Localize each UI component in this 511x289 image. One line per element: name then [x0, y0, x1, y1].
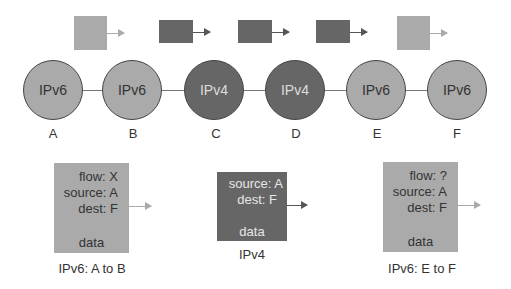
- packet-ipv4: source: A dest: F data: [217, 172, 287, 241]
- link-a-b: [83, 90, 102, 91]
- packet-flow: flow: ?: [383, 168, 458, 184]
- arrow-icon: [193, 32, 210, 33]
- top-packet-ipv4-1: [159, 20, 193, 43]
- node-protocol: IPv6: [118, 82, 146, 98]
- node-label-e: E: [367, 126, 387, 141]
- top-packet-ipv6-2: [397, 16, 430, 50]
- packet-caption: IPv6: A to B: [40, 261, 144, 276]
- node-protocol: IPv6: [443, 82, 471, 98]
- node-label-a: A: [43, 126, 63, 141]
- node-f: IPv6: [427, 60, 487, 120]
- link-d-e: [325, 90, 346, 91]
- node-label-f: F: [447, 126, 467, 141]
- packet-data: data: [54, 235, 129, 251]
- node-b: IPv6: [102, 60, 162, 120]
- packet-ipv6-e-to-f: flow: ? source: A dest: F data: [383, 162, 458, 252]
- node-protocol: IPv4: [281, 82, 309, 98]
- node-label-b: B: [123, 126, 143, 141]
- arrow-icon: [129, 206, 151, 207]
- packet-source: source: A: [217, 176, 287, 192]
- packet-flow: flow: X: [54, 169, 129, 185]
- node-d: IPv4: [265, 60, 325, 120]
- arrow-icon: [272, 32, 289, 33]
- node-e: IPv6: [346, 60, 406, 120]
- packet-dest: dest: F: [217, 192, 287, 208]
- node-a: IPv6: [23, 60, 83, 120]
- link-b-c: [162, 90, 184, 91]
- arrow-icon: [458, 205, 480, 206]
- arrow-icon: [350, 32, 367, 33]
- packet-caption: IPv4: [217, 247, 287, 262]
- arrow-icon: [107, 33, 124, 34]
- link-c-d: [244, 90, 265, 91]
- node-label-c: C: [206, 126, 226, 141]
- link-e-f: [406, 90, 427, 91]
- top-packet-ipv4-2: [238, 20, 272, 43]
- top-packet-ipv6-1: [74, 16, 107, 50]
- packet-data: data: [383, 234, 458, 250]
- packet-source: source: A: [54, 185, 129, 201]
- node-protocol: IPv6: [39, 82, 67, 98]
- arrow-icon: [430, 33, 447, 34]
- packet-dest: dest: F: [383, 200, 458, 216]
- arrow-icon: [287, 205, 307, 206]
- node-label-d: D: [286, 126, 306, 141]
- node-protocol: IPv4: [200, 82, 228, 98]
- top-packet-ipv4-3: [316, 20, 350, 43]
- node-protocol: IPv6: [362, 82, 390, 98]
- packet-dest: dest: F: [54, 201, 129, 217]
- packet-source: source: A: [383, 184, 458, 200]
- packet-ipv6-a-to-b: flow: X source: A dest: F data: [54, 163, 129, 253]
- packet-caption: IPv6: E to F: [370, 261, 474, 276]
- node-c: IPv4: [184, 60, 244, 120]
- packet-data: data: [217, 224, 287, 240]
